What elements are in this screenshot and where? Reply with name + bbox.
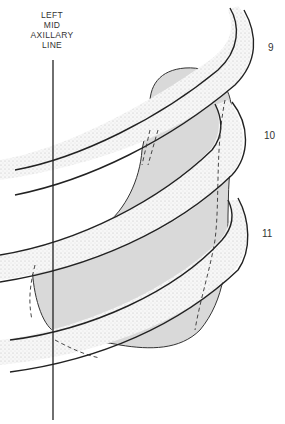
diagram-canvas [0,0,285,424]
rib-label-10: 10 [264,130,275,141]
label-line-1: LEFT [22,10,82,20]
rib-label-11: 11 [262,228,272,239]
axis-line-label: LEFT MID AXILLARY LINE [22,10,82,50]
label-line-4: LINE [22,40,82,50]
label-line-3: AXILLARY [22,30,82,40]
label-line-2: MID [22,20,82,30]
rib-label-9: 9 [268,42,274,53]
anatomical-diagram: LEFT MID AXILLARY LINE 9 10 11 [0,0,285,424]
